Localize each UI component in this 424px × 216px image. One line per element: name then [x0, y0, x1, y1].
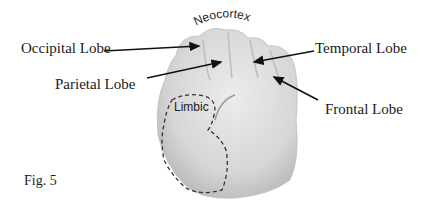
parietal-lobe-label: Parietal Lobe — [55, 77, 135, 92]
frontal-lobe-label: Frontal Lobe — [325, 102, 403, 117]
neocortex-label: Neocortex — [191, 6, 252, 28]
figure-caption: Fig. 5 — [24, 174, 57, 188]
limbic-label: Limbic — [174, 101, 209, 113]
temporal-lobe-label: Temporal Lobe — [315, 41, 407, 56]
occipital-lobe-label: Occipital Lobe — [21, 41, 111, 56]
svg-text:Neocortex: Neocortex — [191, 6, 252, 28]
